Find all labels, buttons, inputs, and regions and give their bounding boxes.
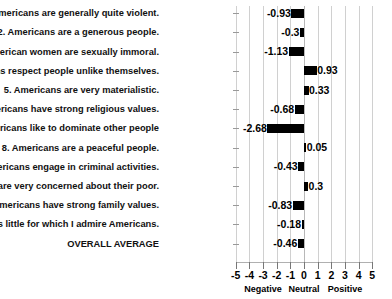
zone-label-positive: Positive [315, 284, 375, 294]
bar [289, 47, 304, 56]
bar [298, 162, 304, 171]
bar [302, 220, 304, 229]
x-tick [372, 262, 373, 269]
value-label: -0.68 [270, 104, 294, 114]
gridline--4 [249, 6, 250, 262]
x-tick [263, 262, 264, 269]
category-label: 4. Americans respect people unlike thems… [0, 66, 159, 76]
category-label: 6. Americans have strong religious value… [0, 104, 159, 114]
value-label: -0.18 [277, 219, 301, 229]
value-label: 0.3 [309, 181, 324, 191]
category-tick [233, 90, 239, 91]
value-label: -0.3 [281, 27, 299, 37]
x-tick [249, 262, 250, 269]
bar [298, 239, 304, 248]
gridline-3 [345, 6, 346, 262]
category-tick [233, 224, 239, 225]
value-label: -0.83 [268, 200, 292, 210]
value-label: 0.93 [317, 65, 337, 75]
category-label: OVERALL AVERAGE [0, 239, 159, 249]
value-label: -0.93 [267, 8, 291, 18]
category-tick [233, 52, 239, 53]
category-tick [233, 32, 239, 33]
category-label: 2. Americans are a generous people. [0, 27, 159, 37]
horizontal-bar-chart: 1. Americans are generally quite violent… [0, 0, 392, 299]
x-tick [345, 262, 346, 269]
x-tick [359, 262, 360, 269]
bar [295, 105, 304, 114]
gridline-4 [359, 6, 360, 262]
category-tick [233, 205, 239, 206]
x-tick [236, 262, 237, 269]
category-label: 9. Many Americans engage in criminal act… [0, 162, 159, 172]
bar [304, 66, 317, 75]
value-label: 0.33 [309, 85, 329, 95]
category-label: 1. Americans are generally quite violent… [0, 8, 159, 18]
category-tick [233, 167, 239, 168]
category-label: 8. Americans are a peaceful people. [0, 143, 159, 153]
category-tick [233, 109, 239, 110]
bar [293, 201, 304, 210]
category-tick [233, 71, 239, 72]
value-label: 0.05 [307, 142, 327, 152]
x-tick [331, 262, 332, 269]
value-label: -2.68 [243, 123, 267, 133]
value-label: -0.46 [273, 238, 297, 248]
category-label: 12. There is little for which I admire A… [0, 219, 159, 229]
bar [304, 86, 309, 95]
category-tick [233, 128, 239, 129]
bar [304, 182, 308, 191]
x-tick [290, 262, 291, 269]
x-tick-label: 5 [362, 270, 382, 281]
gridline-0 [304, 6, 305, 262]
x-tick [277, 262, 278, 269]
category-tick [233, 13, 239, 14]
value-label: -0.43 [274, 161, 298, 171]
category-tick [233, 244, 239, 245]
bar [291, 9, 304, 18]
category-tick [233, 148, 239, 149]
x-tick [304, 262, 305, 269]
category-tick [233, 186, 239, 187]
bar [267, 124, 304, 133]
category-label: 11. Americans have strong family values. [0, 200, 159, 210]
gridline-2 [331, 6, 332, 262]
category-label: 10. Americans are very concerned about t… [0, 181, 159, 191]
gridline-1 [318, 6, 319, 262]
x-tick [318, 262, 319, 269]
category-label: 5. Americans are very materialistic. [0, 85, 159, 95]
category-label: 3. Many American women are sexually immo… [0, 47, 159, 57]
bar [300, 28, 304, 37]
value-label: -1.13 [264, 46, 288, 56]
gridline-5 [372, 6, 373, 262]
category-label: 7. Americans like to dominate other peop… [0, 123, 159, 133]
